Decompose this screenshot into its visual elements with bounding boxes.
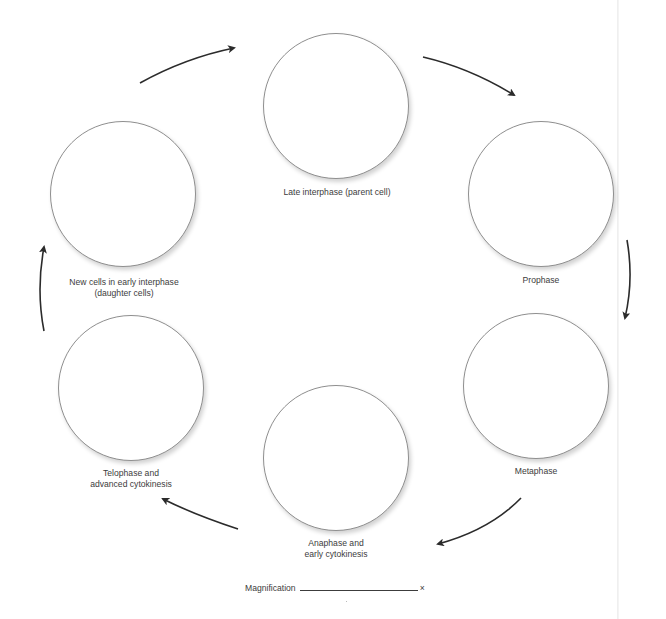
magnification-unit: ×	[420, 583, 425, 593]
magnification-field: Magnification×	[245, 582, 425, 593]
magnification-label: Magnification	[245, 583, 296, 593]
arrow-icon-early-to-late-interphase	[140, 48, 234, 83]
arrow-icon-anaphase-to-telophase	[163, 499, 238, 529]
cycle-arrows	[0, 0, 666, 619]
arrow-icon-prophase-to-metaphase	[625, 240, 630, 318]
arrow-icon-late-interphase-to-prophase	[423, 57, 514, 95]
arrow-icon-metaphase-to-anaphase	[438, 498, 521, 544]
speck	[346, 601, 347, 602]
magnification-blank-input[interactable]	[300, 582, 418, 591]
arrow-icon-telophase-to-early-interphase	[40, 247, 44, 331]
